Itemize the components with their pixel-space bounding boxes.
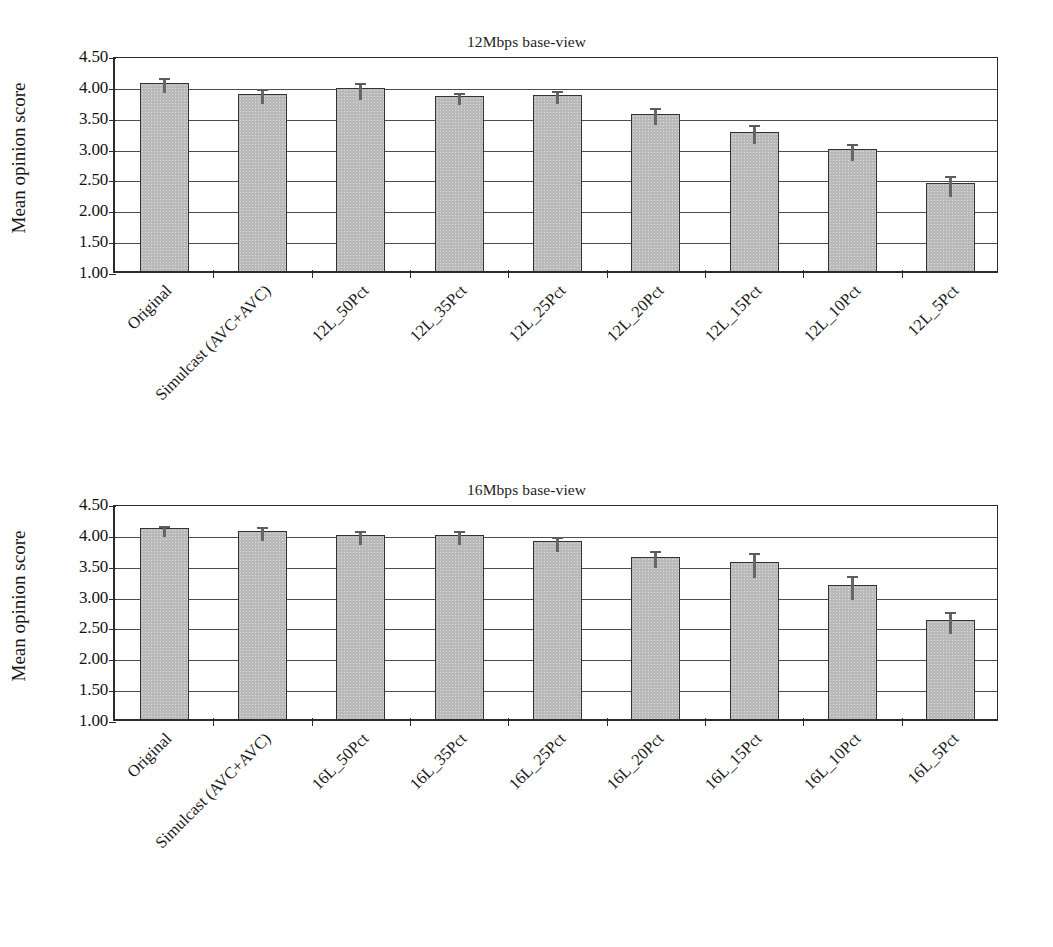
y-tick-label: 1.00: [79, 263, 108, 283]
error-bar-cap: [159, 526, 170, 528]
y-tick-mark: [109, 660, 116, 661]
bar: [238, 531, 287, 719]
y-axis-label: Mean opinion score: [8, 491, 30, 721]
y-tick-label: 1.00: [79, 711, 108, 731]
figure-page: 12Mbps base-viewMean opinion score1.001.…: [0, 0, 1053, 947]
error-bar: [261, 89, 264, 104]
error-bar-cap: [257, 527, 268, 529]
error-bar: [753, 125, 756, 145]
error-bar-cap: [257, 89, 268, 91]
error-bar-cap: [355, 531, 366, 533]
y-tick-mark: [109, 212, 116, 213]
bar: [435, 96, 484, 271]
x-tick-mark: [803, 270, 804, 278]
bar: [140, 528, 189, 719]
y-tick-mark: [109, 537, 116, 538]
y-tick-label: 3.00: [79, 587, 108, 607]
error-bar-cap: [650, 551, 661, 553]
error-bar-cap: [552, 537, 563, 539]
x-tick-mark: [803, 718, 804, 726]
gridline: [115, 89, 997, 90]
plot-area: [113, 505, 998, 721]
y-tick-mark: [109, 274, 116, 275]
y-axis-label: Mean opinion score: [8, 43, 30, 273]
chart-panel-16mbps: 16Mbps base-viewMean opinion score1.001.…: [0, 478, 1053, 918]
error-bar: [163, 78, 166, 93]
y-tick-mark: [109, 506, 116, 507]
bar: [631, 557, 680, 719]
bar: [926, 620, 975, 719]
y-tick-mark: [109, 691, 116, 692]
y-tick-label: 3.50: [79, 556, 108, 576]
x-tick-mark: [312, 718, 313, 726]
error-bar-cap: [847, 144, 858, 146]
y-tick-label: 1.50: [79, 232, 108, 252]
bar: [730, 132, 779, 271]
error-bar: [261, 527, 264, 541]
error-bar-cap: [945, 176, 956, 178]
x-tick-mark: [410, 718, 411, 726]
bar: [631, 114, 680, 271]
error-bar-cap: [847, 576, 858, 578]
y-tick-label: 2.50: [79, 170, 108, 190]
bar: [140, 83, 189, 271]
error-bar-cap: [650, 108, 661, 110]
error-bar-cap: [355, 83, 366, 85]
error-bar-cap: [749, 125, 760, 127]
x-tick-mark: [705, 718, 706, 726]
y-tick-label: 2.00: [79, 201, 108, 221]
x-tick-mark: [902, 270, 903, 278]
y-tick-label: 2.00: [79, 649, 108, 669]
error-bar-cap: [454, 531, 465, 533]
y-tick-mark: [109, 722, 116, 723]
y-tick-mark: [109, 599, 116, 600]
y-tick-label: 1.50: [79, 680, 108, 700]
y-tick-label: 4.50: [79, 47, 108, 67]
error-bar-cap: [159, 78, 170, 80]
y-tick-mark: [109, 120, 116, 121]
chart-title: 16Mbps base-view: [0, 481, 1053, 499]
x-tick-mark: [902, 718, 903, 726]
error-bar: [359, 83, 362, 100]
error-bar-cap: [749, 553, 760, 555]
y-axis-label-text: Mean opinion score: [8, 43, 30, 273]
bar: [435, 535, 484, 719]
y-tick-label: 2.50: [79, 618, 108, 638]
y-tick-label: 4.50: [79, 495, 108, 515]
error-bar: [949, 176, 952, 197]
bar: [828, 149, 877, 271]
error-bar-cap: [454, 93, 465, 95]
y-tick-label: 4.00: [79, 525, 108, 545]
x-tick-mark: [607, 718, 608, 726]
y-tick-label: 3.50: [79, 108, 108, 128]
bar: [730, 562, 779, 719]
y-tick-mark: [109, 629, 116, 630]
y-tick-label: 4.00: [79, 77, 108, 97]
bar: [828, 585, 877, 719]
y-tick-mark: [109, 243, 116, 244]
y-tick-mark: [109, 151, 116, 152]
bar: [533, 95, 582, 272]
error-bar: [556, 91, 559, 105]
y-tick-mark: [109, 181, 116, 182]
y-tick-mark: [109, 89, 116, 90]
chart-panel-12mbps: 12Mbps base-viewMean opinion score1.001.…: [0, 30, 1053, 470]
chart-title: 12Mbps base-view: [0, 33, 1053, 51]
error-bar: [851, 144, 854, 161]
bar: [336, 88, 385, 271]
x-tick-mark: [312, 270, 313, 278]
x-tick-mark: [410, 270, 411, 278]
error-bar: [556, 537, 559, 552]
y-tick-mark: [109, 568, 116, 569]
error-bar: [654, 551, 657, 568]
error-bar: [654, 108, 657, 125]
bar: [238, 94, 287, 271]
bar: [336, 535, 385, 719]
y-tick-label: 3.00: [79, 139, 108, 159]
error-bar: [359, 531, 362, 546]
error-bar: [851, 576, 854, 601]
error-bar: [458, 531, 461, 545]
error-bar: [753, 553, 756, 578]
x-tick-mark: [213, 718, 214, 726]
error-bar: [949, 612, 952, 634]
